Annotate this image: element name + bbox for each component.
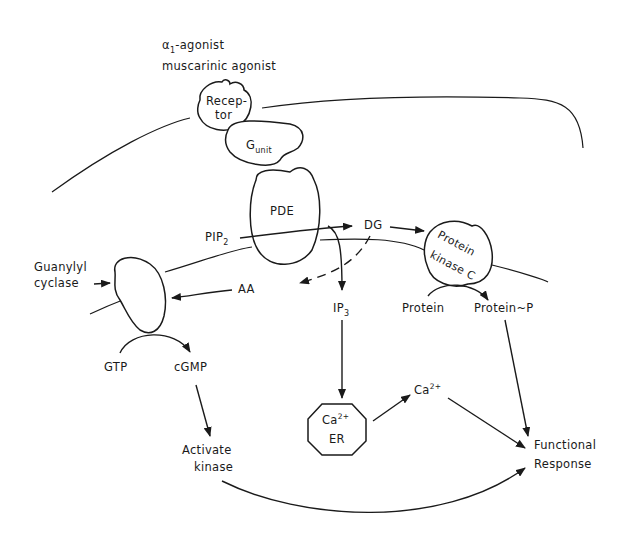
er-octagon xyxy=(308,404,366,455)
guanylyl-label-1: Guanylyl xyxy=(34,262,87,274)
ip3-label: IP3 xyxy=(333,303,349,315)
protein-label: Protein xyxy=(402,303,444,315)
ca-to-response-arrow xyxy=(448,398,525,448)
proteinp-to-response-arrow xyxy=(505,320,528,436)
guanylyl-cyclase-shape xyxy=(115,258,166,333)
er-ca-sup: 2+ xyxy=(338,412,350,421)
guanylyl-label-arrow xyxy=(94,283,110,284)
aa-label: AA xyxy=(238,284,255,296)
ca-main: Ca xyxy=(414,383,430,397)
kinase-to-response-arrow xyxy=(222,468,525,512)
er-ca-main: Ca xyxy=(322,413,338,427)
pip-sub: 2 xyxy=(223,238,228,247)
ca-label: Ca2+ xyxy=(414,385,441,397)
pde-to-ip3-arrow xyxy=(328,226,342,290)
alpha-subscript: 1 xyxy=(170,46,175,55)
activate-label-1: Activate xyxy=(182,445,232,457)
agonist-label-1: α1-agonist xyxy=(162,40,224,52)
cgmp-label: cGMP xyxy=(174,362,207,374)
er-ca-label: Ca2+ xyxy=(322,415,349,427)
cell-membrane-outer xyxy=(52,118,190,192)
gunit-sub: unit xyxy=(255,146,272,155)
er-to-ca-arrow xyxy=(373,395,410,421)
agonist-label-2: muscarinic agonist xyxy=(162,61,276,73)
cell-membrane-inner-far xyxy=(492,265,548,282)
cell-membrane-inner-right xyxy=(320,239,424,250)
ca-sup: 2+ xyxy=(430,382,442,391)
cell-membrane-outer-right xyxy=(262,97,583,148)
aa-to-guanylyl-arrow xyxy=(172,290,232,298)
guanylyl-label-2: cyclase xyxy=(34,278,79,290)
receptor-label-1: Recep- xyxy=(206,96,247,108)
activate-label-2: kinase xyxy=(194,462,233,474)
functional-label-1: Functional xyxy=(534,440,596,452)
pde-label: PDE xyxy=(270,206,294,218)
gtp-cgmp-arc xyxy=(120,335,190,353)
gtp-label: GTP xyxy=(104,362,127,374)
dg-label: DG xyxy=(364,220,382,232)
dg-to-pkc-arrow xyxy=(390,227,424,231)
pip-main: PIP xyxy=(205,230,223,244)
protein-p-label: Protein~P xyxy=(474,303,534,315)
gunit-main: G xyxy=(246,138,255,152)
agonist-text: -agonist xyxy=(175,38,224,52)
ip-main: IP xyxy=(333,301,344,315)
alpha-symbol: α xyxy=(162,38,170,52)
functional-label-2: Response xyxy=(534,459,592,471)
receptor-label-2: tor xyxy=(215,110,232,122)
cgmp-to-kinase-arrow xyxy=(196,385,210,436)
pip2-label: PIP2 xyxy=(205,232,229,244)
gunit-label: Gunit xyxy=(246,140,272,152)
er-label: ER xyxy=(329,434,345,446)
ip-sub: 3 xyxy=(344,309,349,318)
protein-arc xyxy=(428,285,488,300)
cell-membrane-inner-mid xyxy=(165,247,252,272)
